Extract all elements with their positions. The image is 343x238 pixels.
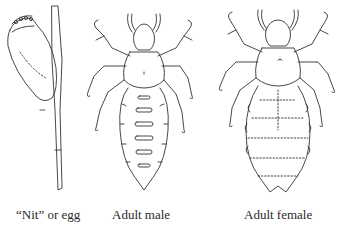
louse-illustration-figure: “Nit” or egg Adult male Adult female: [0, 0, 343, 238]
nit-egg-drawing: [8, 6, 62, 190]
illustration-drawing: [0, 0, 343, 238]
caption-adult-male: Adult male: [112, 207, 170, 223]
caption-nit-or-egg: “Nit” or egg: [16, 207, 80, 223]
caption-adult-female: Adult female: [244, 207, 312, 223]
adult-male-louse-drawing: [87, 14, 192, 190]
adult-female-louse-drawing: [219, 10, 334, 192]
